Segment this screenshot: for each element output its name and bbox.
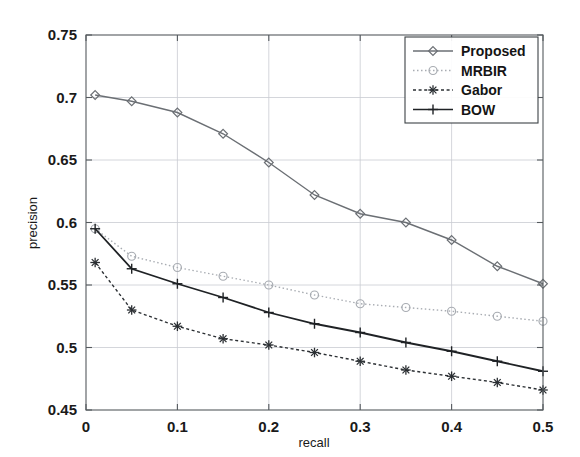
x-axis-title: recall <box>298 435 329 450</box>
y-tick-label: 0.45 <box>48 401 77 418</box>
precision-recall-chart: 00.10.20.30.40.5 0.450.50.550.60.650.70.… <box>0 0 580 457</box>
y-tick-label: 0.75 <box>48 26 77 43</box>
y-tick-label: 0.55 <box>48 276 77 293</box>
x-tick-label: 0.4 <box>441 418 463 435</box>
y-tick-label: 0.5 <box>56 339 77 356</box>
data-point-gabor <box>90 258 100 268</box>
legend-label-mrbir: MRBIR <box>461 63 507 79</box>
data-point-gabor <box>493 378 503 388</box>
y-tick-label: 0.65 <box>48 151 77 168</box>
y-tick-label: 0.6 <box>56 214 77 231</box>
data-point-gabor <box>218 334 228 344</box>
data-point-gabor <box>173 321 183 331</box>
x-tick-label: 0.5 <box>533 418 554 435</box>
legend-label-proposed: Proposed <box>461 43 526 59</box>
data-point-gabor <box>401 365 411 375</box>
data-point-gabor <box>310 348 320 358</box>
chart-legend: ProposedMRBIRGaborBOW <box>405 37 538 123</box>
data-point-gabor <box>127 305 137 315</box>
x-tick-label: 0.3 <box>350 418 371 435</box>
legend-label-gabor: Gabor <box>461 82 503 98</box>
x-tick-label: 0.1 <box>167 418 188 435</box>
data-point-gabor <box>264 340 274 350</box>
y-axis-title: precision <box>25 197 40 249</box>
data-point-gabor <box>447 371 457 381</box>
legend-marker-gabor <box>428 85 438 95</box>
x-tick-label: 0.2 <box>258 418 279 435</box>
y-tick-label: 0.7 <box>56 89 77 106</box>
data-point-gabor <box>355 356 365 366</box>
legend-label-bow: BOW <box>461 102 496 118</box>
x-tick-label: 0 <box>82 418 90 435</box>
